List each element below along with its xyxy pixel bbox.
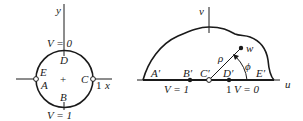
right-segment-label: V = 0	[234, 83, 259, 95]
phi-label: ϕ	[245, 60, 251, 72]
point-E-label: E	[39, 66, 47, 78]
y-axis-label: y	[55, 4, 61, 16]
left-segment-label: V = 1	[164, 83, 189, 95]
point-D-prime-label: D′	[222, 67, 234, 79]
point-C-label: C	[81, 73, 89, 85]
x-tick-one-label: 1	[96, 79, 102, 91]
point-AE-marker	[34, 77, 39, 82]
point-C-prime-label: C′	[200, 67, 210, 79]
conformal-map-figure: y + V = 0 V = 1 D B E A C 1 x u v	[0, 0, 303, 121]
top-boundary-label: V = 0	[47, 37, 72, 49]
bottom-boundary-label: V = 1	[47, 109, 72, 121]
rho-label: ρ	[217, 52, 223, 64]
v-axis-label: v	[199, 5, 204, 17]
x-axis-label: x	[104, 79, 110, 91]
u-axis-label: u	[285, 78, 291, 90]
point-E-prime-label: E′	[255, 67, 266, 79]
point-w-marker	[239, 46, 243, 50]
left-diagram: y + V = 0 V = 1 D B E A C 1 x	[16, 4, 112, 121]
tick-one-label: 1	[226, 83, 232, 95]
right-diagram: u v A′ B′ C′ D′ E′ w ρ ϕ V = 1 1 V = 0	[137, 5, 291, 95]
point-C-marker	[91, 77, 96, 82]
point-A-prime-label: A′	[150, 67, 161, 79]
center-mark: +	[60, 73, 66, 85]
point-B-prime-label: B′	[183, 67, 193, 79]
point-D-label: D	[59, 54, 68, 66]
point-w-label: w	[246, 42, 254, 54]
point-B-label: B	[60, 91, 67, 103]
point-A-label: A	[40, 79, 48, 91]
